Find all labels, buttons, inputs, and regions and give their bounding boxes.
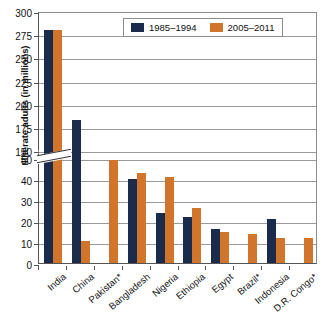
bar-a (211, 229, 220, 263)
x-axis-tick (150, 266, 151, 270)
legend-swatch-orange (210, 23, 223, 32)
legend-label-2005-2011: 2005–2011 (228, 22, 275, 33)
legend-item-2005-2011: 2005–2011 (210, 22, 275, 33)
bar-b (165, 177, 174, 263)
bar-b (248, 234, 257, 263)
bar-b (192, 208, 201, 263)
y-axis-tick-label: 250 (15, 54, 32, 65)
y-axis-tick-label: 150 (15, 147, 32, 158)
x-axis-tick (178, 266, 179, 270)
bar-b (137, 173, 146, 263)
bar-a (128, 179, 137, 263)
bar-group (290, 11, 318, 263)
bar-b (304, 238, 313, 263)
bar-group (67, 11, 95, 263)
bar-group (262, 11, 290, 263)
x-axis-tick (38, 266, 39, 270)
bar-chart: Illiterate adults (in millions) 01020304… (0, 0, 329, 316)
bar-group (123, 11, 151, 263)
y-axis-tick-label: 40 (21, 176, 32, 187)
bar-group (39, 11, 67, 263)
y-axis-tick-label: 175 (15, 123, 32, 134)
bar-group (234, 11, 262, 263)
y-axis-tick-label: 225 (15, 77, 32, 88)
y-axis-tick-label: 10 (21, 239, 32, 250)
x-axis-tick (205, 266, 206, 270)
bar-group (95, 11, 123, 263)
x-axis-labels: IndiaChinaPakistan*BangladeshNigeriaEthi… (38, 266, 317, 316)
y-axis-tick-label: 275 (15, 31, 32, 42)
x-axis-tick (289, 266, 290, 270)
bar-b (53, 30, 62, 263)
y-axis-tick-label: 0 (26, 260, 32, 271)
plot-area: 01020304050150175200225250275300 (38, 12, 317, 264)
x-axis-tick (94, 266, 95, 270)
bar-a (183, 217, 192, 263)
x-axis-tick (66, 266, 67, 270)
bar-group (206, 11, 234, 263)
y-axis-tick-label: 300 (15, 8, 32, 19)
x-axis-tick (261, 266, 262, 270)
x-axis-tick (122, 266, 123, 270)
bar-a (44, 30, 53, 263)
chart-legend: 1985–1994 2005–2011 (123, 18, 283, 37)
bar-b (276, 238, 285, 263)
bar-a (72, 120, 81, 263)
bar-a (267, 219, 276, 263)
bar-b (109, 160, 118, 263)
bar-group (151, 11, 179, 263)
bar-b (220, 232, 229, 264)
bar-b (81, 241, 90, 263)
legend-swatch-navy (131, 23, 144, 32)
y-axis-tick-label: 200 (15, 100, 32, 111)
legend-label-1985-1994: 1985–1994 (149, 22, 197, 33)
y-axis-tick-label: 30 (21, 197, 32, 208)
y-axis-tick-label: 20 (21, 218, 32, 229)
x-axis-tick (233, 266, 234, 270)
bar-a (156, 213, 165, 263)
bar-group (179, 11, 207, 263)
legend-item-1985-1994: 1985–1994 (131, 22, 197, 33)
